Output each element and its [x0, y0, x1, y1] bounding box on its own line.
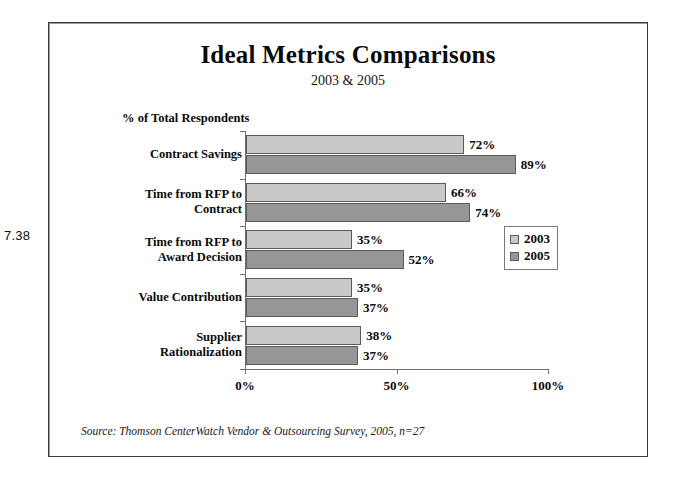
category-label: Time from RFP toAward Decision: [72, 235, 242, 265]
bar-2005: [246, 203, 470, 222]
legend-swatch-2005: [510, 252, 519, 261]
x-tick-mark: [548, 369, 549, 374]
chart-subtitle: 2003 & 2005: [49, 73, 647, 89]
bar-group: Value Contribution35%37%: [245, 274, 548, 322]
axis-header-label: % of Total Respondents: [122, 111, 249, 126]
category-label-line: Supplier: [72, 330, 242, 345]
category-label: Time from RFP toContract: [72, 187, 242, 217]
category-label: SupplierRationalization: [72, 330, 242, 360]
bar-group: Time from RFP toContract66%74%: [245, 179, 548, 227]
bar-group: SupplierRationalization38%37%: [245, 321, 548, 369]
figure-number: 7.38: [4, 228, 30, 243]
bar-2005: [246, 346, 358, 365]
bar-value-label: 35%: [357, 278, 383, 297]
chart-title: Ideal Metrics Comparisons: [49, 41, 647, 69]
bar-2003: [246, 230, 352, 249]
source-note: Source: Thomson CenterWatch Vendor & Out…: [81, 425, 424, 437]
bar-2003: [246, 326, 361, 345]
x-tick-label: 100%: [532, 378, 565, 394]
bar-value-label: 52%: [409, 250, 435, 269]
plot-area: 0%50%100% Contract Savings72%89%Time fro…: [245, 131, 548, 369]
bar-2005: [246, 250, 404, 269]
x-tick-mark: [245, 369, 246, 374]
legend-label-2003: 2003: [524, 231, 550, 247]
bar-value-label: 37%: [363, 346, 389, 365]
category-label-line: Contract: [72, 202, 242, 217]
category-label: Contract Savings: [72, 147, 242, 162]
bar-value-label: 89%: [521, 155, 547, 174]
bar-group: Time from RFP toAward Decision35%52%: [245, 226, 548, 274]
bar-2003: [246, 278, 352, 297]
legend-swatch-2003: [510, 235, 519, 244]
bar-2005: [246, 155, 516, 174]
x-tick-mark: [397, 369, 398, 374]
y-tick-mark: [240, 369, 245, 370]
bar-2003: [246, 183, 446, 202]
bar-value-label: 35%: [357, 230, 383, 249]
category-label-line: Value Contribution: [72, 290, 242, 305]
category-label-line: Rationalization: [72, 345, 242, 360]
category-label-line: Time from RFP to: [72, 235, 242, 250]
chart-legend: 20032005: [504, 226, 558, 270]
legend-item-2003[interactable]: 2003: [510, 231, 550, 247]
bar-2005: [246, 298, 358, 317]
x-tick-label: 50%: [384, 378, 410, 394]
category-label-line: Contract Savings: [72, 147, 242, 162]
category-label-line: Time from RFP to: [72, 187, 242, 202]
bar-value-label: 38%: [366, 326, 392, 345]
bar-group: Contract Savings72%89%: [245, 131, 548, 179]
bar-2003: [246, 135, 464, 154]
category-label-line: Award Decision: [72, 250, 242, 265]
bar-value-label: 74%: [475, 203, 501, 222]
chart-frame: Ideal Metrics Comparisons 2003 & 2005 % …: [48, 22, 648, 457]
bar-value-label: 66%: [451, 183, 477, 202]
legend-item-2005[interactable]: 2005: [510, 248, 550, 264]
category-label: Value Contribution: [72, 290, 242, 305]
bar-value-label: 37%: [363, 298, 389, 317]
x-tick-label: 0%: [235, 378, 255, 394]
bar-value-label: 72%: [469, 135, 495, 154]
legend-label-2005: 2005: [524, 248, 550, 264]
